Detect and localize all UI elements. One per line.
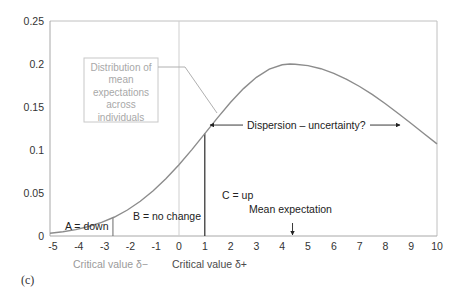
y-axis-ticks: 00.050.10.150.20.25 <box>24 15 45 242</box>
y-tick-label: 0.05 <box>24 187 45 199</box>
x-tick-label: -4 <box>74 240 83 252</box>
plot-area <box>50 21 437 236</box>
x-tick-label: 10 <box>431 240 443 252</box>
y-tick-label: 0.2 <box>29 58 44 70</box>
y-tick-label: 0.25 <box>24 15 45 27</box>
x-tick-label: 3 <box>253 240 259 252</box>
y-tick-label: 0.1 <box>29 144 44 156</box>
critical-value-plus-label: Critical value δ+ <box>172 258 247 270</box>
x-tick-label: 1 <box>202 240 208 252</box>
x-tick-label: -5 <box>48 240 57 252</box>
x-tick-label: 9 <box>408 240 414 252</box>
callout-leader-line <box>158 67 217 113</box>
y-tick-label: 0 <box>38 230 44 242</box>
callout-line-2: mean <box>108 74 133 85</box>
callout-line-1: Distribution of <box>90 62 151 73</box>
distribution-callout: Distribution of mean expectations across… <box>84 58 217 123</box>
x-tick-label: -1 <box>152 240 161 252</box>
x-tick-label: 2 <box>228 240 234 252</box>
dispersion-annotation: Dispersion – uncertainty? <box>210 119 400 131</box>
x-tick-label: -3 <box>100 240 109 252</box>
x-tick-label: 8 <box>382 240 388 252</box>
x-tick-label: 0 <box>176 240 182 252</box>
panel-label: (c) <box>21 273 34 287</box>
x-tick-label: 4 <box>279 240 285 252</box>
region-a-label: A = down <box>65 220 109 232</box>
chart: 00.050.10.150.20.25 -5-4-3-2-10123456789… <box>0 0 464 292</box>
x-tick-label: 7 <box>357 240 363 252</box>
mean-expectation-label: Mean expectation <box>249 203 332 215</box>
region-c-label: C = up <box>222 189 253 201</box>
y-tick-label: 0.15 <box>24 101 45 113</box>
x-tick-label: 5 <box>305 240 311 252</box>
callout-line-5: individuals <box>98 112 145 123</box>
region-b-label: B = no change <box>133 210 201 222</box>
callout-line-4: across <box>106 99 135 110</box>
x-axis-ticks: -5-4-3-2-1012345678910 <box>48 240 443 252</box>
callout-line-3: expectations <box>93 87 149 98</box>
dispersion-label: Dispersion – uncertainty? <box>247 119 366 131</box>
critical-value-minus-label: Critical value δ− <box>73 258 148 270</box>
x-tick-label: 6 <box>331 240 337 252</box>
x-tick-label: -2 <box>126 240 135 252</box>
